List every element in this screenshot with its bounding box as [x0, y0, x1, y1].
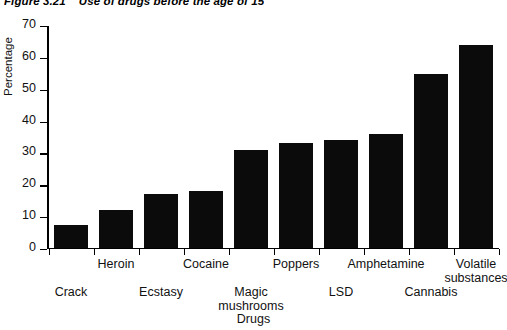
y-axis-tick-label: 70 — [22, 17, 36, 31]
y-axis-tick: 40 — [40, 122, 47, 123]
x-axis-tick — [94, 249, 95, 255]
y-axis-title: Percentage — [2, 37, 14, 96]
x-axis-label-line: Ecstasy — [139, 285, 183, 299]
x-axis-label: Ecstasy — [139, 285, 183, 299]
bar — [279, 143, 313, 247]
x-axis-title: Drugs — [0, 312, 507, 326]
x-axis-tick — [274, 249, 275, 255]
y-axis-tick-label: 20 — [22, 176, 36, 190]
x-axis-label: LSD — [329, 285, 353, 299]
y-axis-tick: 50 — [40, 90, 47, 91]
chart-figure: Figure 3.21Use of drugs before the age o… — [0, 0, 507, 330]
y-axis-tick-label: 60 — [22, 49, 36, 63]
x-axis-label-line: Cocaine — [183, 257, 229, 271]
y-axis-tick: 20 — [40, 185, 47, 186]
y-axis-tick-label: 40 — [22, 113, 36, 127]
x-axis-tick — [184, 249, 185, 255]
x-axis-tick — [364, 249, 365, 255]
x-axis-tick — [499, 249, 500, 255]
x-axis-label-line: LSD — [329, 285, 353, 299]
bar — [234, 150, 268, 248]
y-axis-tick-label: 10 — [22, 208, 36, 222]
figure-number: Figure 3.21 — [4, 0, 66, 7]
bar — [189, 191, 223, 248]
x-axis-label-line: substances — [444, 271, 507, 285]
y-axis-tick-label: 30 — [22, 144, 36, 158]
x-axis-tick — [139, 249, 140, 255]
x-axis-label: Poppers — [273, 257, 320, 271]
x-axis-label: Crack — [55, 285, 88, 299]
bar-series — [49, 27, 499, 248]
x-axis-label: Cannabis — [405, 285, 458, 299]
x-axis-label-line: Magic — [218, 285, 283, 299]
plot-area: 010203040506070 — [47, 26, 499, 249]
figure-title: Use of drugs before the age of 15 — [79, 0, 264, 7]
x-axis-label-line: Amphetamine — [347, 257, 424, 271]
y-axis-tick-label: 0 — [29, 240, 36, 254]
bar — [369, 134, 403, 248]
x-axis-label-line: Heroin — [98, 257, 135, 271]
x-axis-label: Magicmushrooms — [218, 285, 283, 313]
x-axis-label-line: Crack — [55, 285, 88, 299]
x-axis-tick — [229, 249, 230, 255]
x-axis-tick — [454, 249, 455, 255]
bar — [99, 210, 133, 248]
x-axis-tick — [49, 249, 50, 255]
x-axis-tick — [409, 249, 410, 255]
y-axis-tick: 10 — [40, 217, 47, 218]
y-axis-tick: 0 — [40, 249, 47, 250]
x-axis-tick — [319, 249, 320, 255]
y-axis-tick: 30 — [40, 153, 47, 154]
y-axis-tick-label: 50 — [22, 81, 36, 95]
x-axis-label-line: Volatile — [444, 257, 507, 271]
x-axis-label: Heroin — [98, 257, 135, 271]
x-axis-label-line: Poppers — [273, 257, 320, 271]
x-axis-label-line: Cannabis — [405, 285, 458, 299]
bar — [459, 45, 493, 247]
bar — [144, 194, 178, 248]
x-axis-label: Cocaine — [183, 257, 229, 271]
x-axis-label: Volatilesubstances — [444, 257, 507, 285]
y-axis-tick: 60 — [40, 58, 47, 59]
x-axis-label: Amphetamine — [347, 257, 424, 271]
x-axis-label-line: mushrooms — [218, 299, 283, 313]
figure-caption: Figure 3.21Use of drugs before the age o… — [4, 0, 264, 9]
bar — [324, 140, 358, 247]
bar — [414, 74, 448, 248]
y-axis-tick: 70 — [40, 26, 47, 27]
bar — [54, 225, 88, 247]
